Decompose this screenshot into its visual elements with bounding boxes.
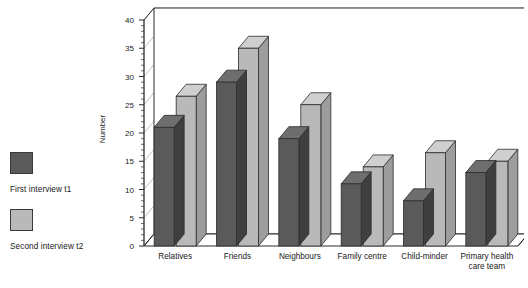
bar [466,161,496,246]
x-axis-tick-label: Primary health care team [456,252,518,271]
legend-label-first-interview: First interview t1 [10,185,71,194]
bar [404,189,434,246]
legend-label-second-interview: Second interview t2 [10,242,83,251]
x-axis-tick-labels: Primary health care teamChild-minderFami… [96,252,524,282]
plot-area [96,6,524,286]
bar-chart: Number 0510152025303540 Primary health c… [96,6,524,286]
legend-swatch-second-interview-icon [10,209,33,231]
bar [341,172,371,246]
x-axis-tick-label: Relatives [144,252,206,262]
x-axis-tick-label: Child-minder [393,252,455,262]
bar [217,70,247,246]
x-axis-tick-label: Family centre [331,252,393,262]
legend-swatch-first-interview-icon [10,152,33,174]
x-axis-tick-label: Neighbours [269,252,331,262]
bar [154,115,184,246]
bar [279,127,309,246]
y-axis-ticks [139,20,144,246]
x-axis-tick-label: Friends [206,252,268,262]
